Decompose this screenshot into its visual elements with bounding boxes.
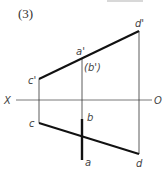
header-box: [107, 0, 143, 2]
label-b: b: [87, 112, 93, 123]
label-b-prime: (b'): [84, 62, 101, 73]
label-a-prime: a': [76, 46, 85, 57]
label-a: a: [85, 157, 91, 168]
label-c-prime: c': [28, 75, 36, 86]
label-d: d: [136, 158, 143, 169]
line-c-d: [39, 123, 139, 154]
axis-label-o: O: [154, 95, 162, 106]
problem-number: (3): [18, 6, 33, 21]
label-d-prime: d': [135, 18, 144, 29]
label-c: c: [29, 118, 35, 129]
axis-label-x: X: [3, 95, 12, 106]
projection-diagram: (3) X O c' a' (b') d' c b a d: [0, 0, 167, 175]
